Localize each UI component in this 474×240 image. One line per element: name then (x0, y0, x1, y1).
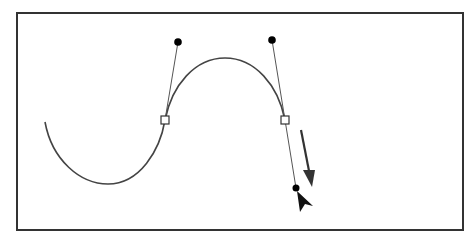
anchor-point-right[interactable] (281, 116, 289, 124)
handle-right-bottom-point[interactable] (293, 185, 300, 192)
handle-right-top-point[interactable] (268, 36, 276, 44)
diagram-frame (17, 13, 463, 230)
anchor-point-left[interactable] (161, 116, 169, 124)
bezier-diagram (0, 0, 474, 240)
handle-left-top-point[interactable] (174, 38, 182, 46)
